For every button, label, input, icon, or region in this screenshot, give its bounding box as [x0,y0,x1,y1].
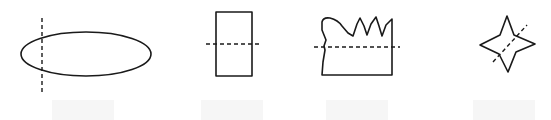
label-box-2 [201,100,263,120]
figure-item-irregular [314,17,400,75]
figure-item-rectangle [206,12,262,76]
label-box-3 [326,100,388,120]
label-box-1 [52,100,114,120]
star-shape [480,16,535,72]
dashed-line-diagonal [493,25,527,62]
irregular-shape [322,17,392,75]
figure-item-ellipse [21,18,151,93]
ellipse-shape [21,32,151,76]
figure-item-star [480,16,535,72]
label-box-4 [473,100,535,120]
